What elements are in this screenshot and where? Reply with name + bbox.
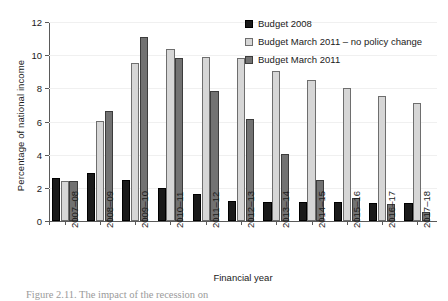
x-tick-label: 2011–12 <box>210 192 221 228</box>
x-tick-label: 2017–18 <box>421 191 432 228</box>
legend-label: Budget March 2011 <box>258 54 340 65</box>
bar <box>237 58 245 221</box>
x-tick-mark <box>417 221 418 225</box>
bar <box>369 203 377 221</box>
bar <box>404 203 412 221</box>
x-tick-mark <box>276 221 277 225</box>
x-tick-label: 2016–17 <box>386 191 397 228</box>
x-tick-mark <box>100 221 101 225</box>
x-tick-label: 2008–09 <box>104 191 115 228</box>
x-tick-mark <box>135 221 136 225</box>
x-tick-mark <box>312 221 313 225</box>
bar <box>87 173 95 221</box>
bar <box>378 96 386 221</box>
y-tick-mark <box>45 22 49 23</box>
figure-chart: Percentage of national income 0246810122… <box>0 0 448 301</box>
bar <box>202 57 210 221</box>
x-tick-mark <box>347 221 348 225</box>
y-tick-label: 10 <box>31 50 42 61</box>
legend-swatch-icon <box>245 38 253 46</box>
legend-label: Budget 2008 <box>258 18 312 29</box>
legend-item: Budget March 2011 – no policy change <box>245 34 422 49</box>
y-tick-mark <box>45 88 49 89</box>
y-tick-mark <box>45 55 49 56</box>
x-tick-mark <box>49 221 50 225</box>
legend-swatch-icon <box>245 56 253 64</box>
legend-label: Budget March 2011 – no policy change <box>258 36 422 47</box>
x-tick-label: 2007–08 <box>69 191 80 228</box>
figure-caption: Figure 2.11. The impact of the recession… <box>26 289 446 300</box>
chart-legend: Budget 2008Budget March 2011 – no policy… <box>245 16 422 70</box>
bar <box>228 201 236 221</box>
x-tick-label: 2010–11 <box>174 192 185 228</box>
x-tick-label: 2009–10 <box>139 191 150 228</box>
legend-swatch-icon <box>245 20 253 28</box>
y-tick-label: 6 <box>37 116 42 127</box>
bar <box>263 202 271 221</box>
x-tick-mark <box>65 221 66 225</box>
bar <box>158 188 166 221</box>
bar <box>96 121 104 221</box>
bar <box>307 80 315 221</box>
bar <box>193 194 201 221</box>
x-tick-label: 2015–16 <box>351 191 362 228</box>
x-tick-label: 2014–15 <box>316 191 327 228</box>
x-tick-mark <box>241 221 242 225</box>
x-tick-mark <box>206 221 207 225</box>
bar <box>299 202 307 221</box>
bar <box>122 180 130 221</box>
x-tick-mark <box>382 221 383 225</box>
legend-item: Budget 2008 <box>245 16 422 31</box>
bar <box>334 202 342 221</box>
y-tick-label: 8 <box>37 83 42 94</box>
y-tick-label: 12 <box>31 17 42 28</box>
y-axis-title: Percentage of national income <box>15 26 26 226</box>
x-tick-label: 2013–14 <box>280 191 291 228</box>
bar <box>61 181 69 221</box>
x-tick-mark <box>170 221 171 225</box>
x-axis-title: Financial year <box>49 272 437 283</box>
y-tick-mark <box>45 188 49 189</box>
y-tick-label: 0 <box>37 216 42 227</box>
y-tick-mark <box>45 155 49 156</box>
y-tick-label: 4 <box>37 149 42 160</box>
legend-item: Budget March 2011 <box>245 52 422 67</box>
bar <box>52 178 60 221</box>
y-tick-label: 2 <box>37 182 42 193</box>
y-tick-mark <box>45 122 49 123</box>
bar <box>343 88 351 221</box>
x-tick-label: 2012–13 <box>245 191 256 228</box>
